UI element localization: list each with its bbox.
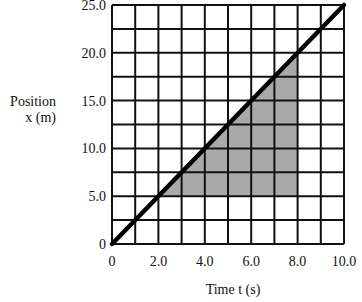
position-time-chart: 05.010.015.020.025.0 02.04.06.08.010.0 bbox=[0, 0, 362, 302]
y-tick-label: 20.0 bbox=[82, 46, 107, 61]
y-tick-label: 15.0 bbox=[82, 94, 107, 109]
y-tick-label: 0 bbox=[99, 237, 106, 252]
y-tick-label: 10.0 bbox=[82, 141, 107, 156]
x-tick-label: 2.0 bbox=[150, 254, 168, 269]
y-axis-label: Position x (m) bbox=[4, 94, 56, 126]
y-axis-ticks: 05.010.015.020.025.0 bbox=[82, 0, 107, 252]
x-tick-label: 0 bbox=[109, 254, 116, 269]
x-tick-label: 10.0 bbox=[332, 254, 357, 269]
x-axis-label: Time t (s) bbox=[0, 282, 362, 298]
y-axis-label-line2: x (m) bbox=[4, 110, 56, 126]
x-tick-label: 4.0 bbox=[196, 254, 214, 269]
x-axis-ticks: 02.04.06.08.010.0 bbox=[109, 254, 357, 269]
y-tick-label: 5.0 bbox=[89, 189, 107, 204]
y-tick-label: 25.0 bbox=[82, 0, 107, 13]
x-tick-label: 6.0 bbox=[242, 254, 260, 269]
y-axis-label-line1: Position bbox=[4, 94, 56, 110]
x-tick-label: 8.0 bbox=[289, 254, 307, 269]
